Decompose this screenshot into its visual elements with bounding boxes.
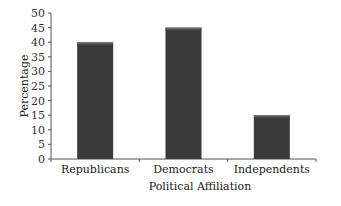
bar-republicans xyxy=(77,42,113,159)
y-axis-label: Percentage xyxy=(18,55,31,118)
y-tick-label: 30 xyxy=(31,65,45,78)
bar-top-highlight xyxy=(254,115,290,118)
y-tick-label: 10 xyxy=(31,124,45,137)
bars xyxy=(77,28,290,159)
y-tick-label: 40 xyxy=(31,36,45,49)
bar-independents xyxy=(254,115,290,159)
bar-chart: 05101520253035404550 RepublicansDemocrat… xyxy=(0,0,341,206)
y-axis: 05101520253035404550 xyxy=(31,7,51,166)
y-tick-label: 25 xyxy=(31,80,45,93)
y-tick-label: 15 xyxy=(31,109,45,122)
y-tick-label: 45 xyxy=(31,22,45,35)
y-tick-label: 0 xyxy=(38,153,45,166)
x-category-label: Independents xyxy=(234,163,311,176)
y-tick-label: 20 xyxy=(31,95,45,108)
bar-top-highlight xyxy=(166,28,202,31)
x-category-label: Democrats xyxy=(153,163,214,176)
x-axis: RepublicansDemocratsIndependents xyxy=(51,159,316,176)
x-category-label: Republicans xyxy=(61,163,130,176)
y-tick-label: 35 xyxy=(31,51,45,64)
y-tick-label: 50 xyxy=(31,7,45,20)
bar-top-highlight xyxy=(77,42,113,45)
x-axis-label: Political Affiliation xyxy=(149,180,252,193)
y-tick-label: 5 xyxy=(38,138,45,151)
bar-democrats xyxy=(166,28,202,159)
